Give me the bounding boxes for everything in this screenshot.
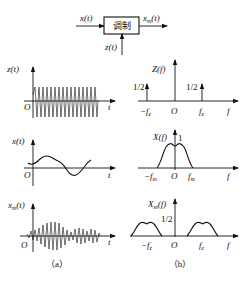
caption-a: （a） xyxy=(46,259,68,269)
tick-neg-fm: −fm xyxy=(144,171,158,182)
input-label: x(t) xyxy=(79,13,93,23)
y-axis-label: z(t) xyxy=(6,64,19,74)
origin-label: O xyxy=(171,106,178,116)
modulation-diagram: x(t) 调制 xm(t) z(t) z(t) O t x(t) O t xm(… xyxy=(0,0,249,285)
message-signal xyxy=(28,156,91,175)
x-axis-label: t xyxy=(108,237,111,247)
x-axis-label: t xyxy=(108,102,111,112)
y-axis-label: Z(f) xyxy=(152,64,166,74)
x-axis-label: f xyxy=(227,106,231,116)
modulator-label: 调制 xyxy=(113,20,131,31)
tick-fz: fz xyxy=(199,106,205,117)
y-axis-label: Xm(f) xyxy=(147,199,166,210)
output-label: xm(t) xyxy=(142,13,160,24)
y-axis-label: X(f) xyxy=(152,132,167,142)
tick-fm: fm xyxy=(188,171,196,182)
plot-message-time: x(t) O t xyxy=(11,136,115,186)
plot-modulated-spectrum: Xm(f) 1/2 −fz O fz f xyxy=(130,199,238,251)
block-diagram: x(t) 调制 xm(t) z(t) xyxy=(76,13,167,55)
lower-sideband-spectrum xyxy=(131,222,162,236)
x-axis-label: t xyxy=(108,170,111,180)
tick-neg-fz: −fz xyxy=(141,240,153,251)
carrier-wave xyxy=(33,87,98,117)
peak-label: 1 xyxy=(178,133,183,143)
amplitude-label: 1/2 xyxy=(161,214,173,224)
impulse-label-neg: 1/2 xyxy=(133,82,145,92)
plot-message-spectrum: X(f) 1 −fm O fm f xyxy=(138,130,238,182)
impulse-label-pos: 1/2 xyxy=(186,82,198,92)
carrier-label: z(t) xyxy=(104,42,117,52)
origin-label: O xyxy=(171,171,178,181)
y-axis-label: x(t) xyxy=(11,136,25,146)
origin-label: O xyxy=(24,102,31,112)
caption-b: （b） xyxy=(169,259,192,269)
origin-label: O xyxy=(171,240,178,250)
x-axis-label: f xyxy=(227,171,231,181)
plot-carrier-spectrum: Z(f) 1/2 1/2 −fz O fz f xyxy=(133,60,238,117)
tick-fz: fz xyxy=(199,240,205,251)
y-axis-label: xm(t) xyxy=(7,200,25,211)
plot-carrier-time: z(t) O t xyxy=(6,64,115,118)
origin-label: O xyxy=(24,170,31,180)
x-axis-label: f xyxy=(227,240,231,250)
tick-neg-fz: −fz xyxy=(140,106,152,117)
origin-label: O xyxy=(21,240,28,250)
upper-sideband-spectrum xyxy=(187,222,218,236)
plot-modulated-time: xm(t) O t xyxy=(7,200,115,252)
